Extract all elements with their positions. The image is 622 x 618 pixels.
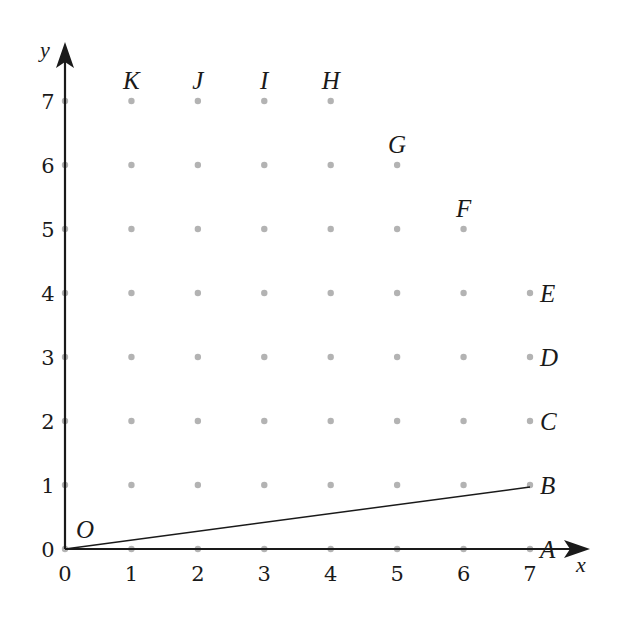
lattice-dot [394, 226, 400, 232]
lattice-dot [128, 290, 134, 296]
lattice-dot [261, 226, 267, 232]
lattice-dot [261, 418, 267, 424]
lattice-diagram: 0123456701234567 ABCDEFGHIJK x y O [0, 0, 622, 618]
lattice-dot [195, 482, 201, 488]
lattice-dot [394, 418, 400, 424]
point-label-a: A [538, 536, 556, 563]
point-label-i: I [259, 67, 270, 94]
lattice-dot [328, 482, 334, 488]
x-tick-label: 2 [191, 562, 204, 586]
lattice-dots [62, 98, 533, 552]
lattice-dot [128, 226, 134, 232]
point-label-f: F [455, 195, 472, 222]
lattice-dot [128, 418, 134, 424]
lattice-dot [128, 98, 134, 104]
lattice-dot [195, 354, 201, 360]
x-tick-label: 6 [457, 562, 470, 586]
y-tick-label: 6 [41, 154, 54, 178]
lattice-dot [195, 226, 201, 232]
point-label-d: D [539, 344, 558, 371]
x-tick-label: 4 [324, 562, 337, 586]
y-tick-label: 2 [41, 410, 54, 434]
point-label-j: J [192, 67, 205, 94]
lattice-dot [261, 482, 267, 488]
lattice-dot [460, 290, 466, 296]
x-tick-label: 5 [390, 562, 403, 586]
y-tick-label: 0 [41, 538, 54, 562]
segment-OB [65, 487, 530, 549]
point-label-c: C [540, 408, 557, 435]
tick-labels: 0123456701234567 [41, 90, 536, 586]
x-tick-label: 7 [523, 562, 536, 586]
y-tick-label: 1 [41, 474, 54, 498]
y-tick-label: 4 [41, 282, 54, 306]
lattice-dot [328, 418, 334, 424]
lattice-dot [460, 482, 466, 488]
x-tick-label: 0 [58, 562, 71, 586]
origin-label: O [76, 516, 94, 543]
point-label-e: E [539, 280, 555, 307]
lattice-dot [128, 354, 134, 360]
point-label-b: B [540, 472, 555, 499]
lattice-dot [527, 418, 533, 424]
lattice-dot [128, 162, 134, 168]
y-tick-label: 3 [41, 346, 54, 370]
x-axis-label: x [575, 552, 586, 577]
lattice-dot [328, 290, 334, 296]
lattice-dot [128, 482, 134, 488]
lattice-dot [328, 98, 334, 104]
lattice-dot [394, 482, 400, 488]
y-tick-label: 5 [41, 218, 54, 242]
lattice-dot [328, 162, 334, 168]
lattice-dot [394, 162, 400, 168]
lattice-dot [394, 290, 400, 296]
lattice-dot [261, 290, 267, 296]
lattice-dot [195, 418, 201, 424]
lattice-dot [261, 354, 267, 360]
lattice-dot [460, 418, 466, 424]
x-tick-label: 1 [125, 562, 138, 586]
lattice-dot [394, 354, 400, 360]
y-axis-label: y [38, 37, 50, 62]
point-label-k: K [122, 67, 141, 94]
lattice-dot [460, 354, 466, 360]
point-labels: ABCDEFGHIJK [122, 67, 558, 563]
lattice-dot [527, 290, 533, 296]
lattice-dot [328, 226, 334, 232]
lattice-dot [460, 226, 466, 232]
lattice-dot [195, 98, 201, 104]
point-label-h: H [321, 67, 342, 94]
lattice-dot [195, 290, 201, 296]
x-tick-label: 3 [258, 562, 271, 586]
lattice-dot [328, 354, 334, 360]
lattice-dot [261, 162, 267, 168]
lattice-dot [261, 98, 267, 104]
lattice-dot [195, 162, 201, 168]
lattice-dot [527, 354, 533, 360]
point-label-g: G [388, 131, 406, 158]
y-tick-label: 7 [41, 90, 54, 114]
